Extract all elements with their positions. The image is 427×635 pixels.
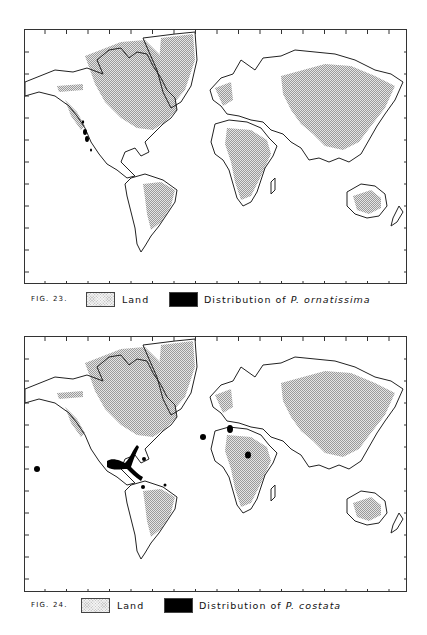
caption: FIG. 24. Land Distribution of P. costata [0, 598, 427, 614]
land-area [281, 64, 395, 150]
distribution-prefix: Distribution of [199, 600, 282, 611]
land-area [143, 489, 175, 537]
land-area [353, 497, 381, 521]
land-area [353, 190, 381, 214]
distribution-spot [90, 149, 92, 152]
figure-label: FIG. 24. [31, 601, 68, 609]
world-map [24, 336, 407, 592]
madagascar-coastline [271, 178, 275, 194]
distribution-spot [164, 484, 167, 487]
land-area [57, 391, 83, 399]
land-swatch [86, 292, 115, 307]
distribution-spot [227, 425, 233, 433]
distribution-spot [141, 485, 145, 489]
land-area [215, 389, 233, 413]
caption: FIG. 23. Land Distribution of P. ornatis… [0, 292, 427, 308]
figure-label: FIG. 23. [31, 295, 68, 303]
land-area [215, 82, 233, 106]
distribution-legend-label: Distribution of P. ornatissima [204, 294, 371, 305]
land-shading [57, 34, 395, 230]
land-area [65, 100, 85, 130]
world-map [24, 29, 407, 284]
land-area [281, 371, 395, 457]
distribution-legend-label: Distribution of P. costata [199, 600, 341, 611]
new-zealand-coastline [391, 513, 403, 533]
land-area [225, 435, 271, 507]
distribution-spot [142, 457, 146, 461]
map-svg [25, 30, 407, 284]
new-zealand-coastline [391, 206, 403, 226]
land-area [143, 182, 175, 230]
distribution-swatch [169, 292, 198, 307]
distribution-spot [85, 136, 89, 142]
species-name: P. costata [286, 600, 342, 611]
madagascar-coastline [271, 485, 275, 501]
distribution-swatch [164, 598, 193, 613]
distribution-area [107, 445, 143, 481]
distribution-spot [34, 466, 40, 472]
distribution-spot [245, 452, 251, 459]
land-area [225, 128, 271, 200]
distribution-spot [83, 129, 87, 135]
land-swatch [81, 598, 110, 613]
land-legend-label: Land [117, 600, 144, 611]
land-shading [57, 341, 395, 537]
land-area [57, 84, 83, 92]
map-svg [25, 337, 407, 592]
species-name: P. ornatissima [291, 294, 371, 305]
distribution-spot [82, 120, 84, 124]
distribution-prefix: Distribution of [204, 294, 287, 305]
distribution-spot [200, 434, 206, 440]
land-legend-label: Land [122, 294, 149, 305]
land-area [65, 407, 85, 437]
